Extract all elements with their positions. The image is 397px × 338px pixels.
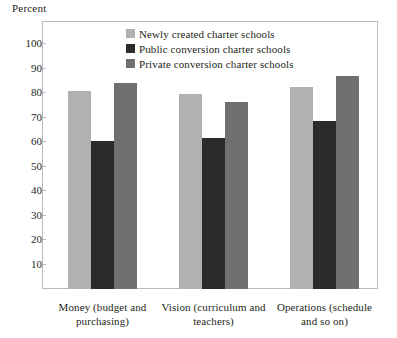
chart-legend: Newly created charter schoolsPublic conv… [126,27,294,70]
y-tick-mark [42,141,46,142]
y-tick-label: 60 [8,136,42,146]
y-tick-mark [42,166,46,167]
y-tick-mark [42,117,46,118]
y-tick-mark [42,239,46,240]
legend-item[interactable]: Newly created charter schools [126,27,294,40]
y-tick-label: 20 [8,234,42,244]
y-tick-mark [42,215,46,216]
legend-label: Newly created charter schools [139,28,275,40]
y-tick-mark [42,43,46,44]
bar [336,76,359,289]
y-tick-mark [42,190,46,191]
y-tick-label: 80 [8,87,42,97]
y-tick-mark [42,92,46,93]
y-tick-label: 50 [8,161,42,171]
bar [114,83,137,289]
legend-label: Private conversion charter schools [139,58,294,70]
x-axis-category-label-line: Vision (curriculum and [152,300,276,314]
bar [179,94,202,289]
legend-swatch-icon [126,44,135,53]
y-tick-label: 30 [8,210,42,220]
bar [225,102,248,289]
legend-label: Public conversion charter schools [139,43,290,55]
x-axis-category-label-line: Money (budget and [41,300,165,314]
legend-item[interactable]: Public conversion charter schools [126,42,294,55]
x-axis-category-label-line: teachers) [152,314,276,328]
x-axis-category-label-line: Operations (schedule [263,300,387,314]
x-axis-category-label-line: purchasing) [41,314,165,328]
y-tick-mark [42,264,46,265]
x-axis-category-label-line: and so on) [263,314,387,328]
bar [68,91,91,289]
y-tick-label: 90 [8,63,42,73]
legend-swatch-icon [126,59,135,68]
x-axis-category-label: Money (budget andpurchasing) [41,300,165,328]
bar [290,87,313,289]
y-tick-label: 70 [8,112,42,122]
y-tick-label: 10 [8,259,42,269]
y-tick-mark [42,68,46,69]
legend-swatch-icon [126,29,135,38]
legend-item[interactable]: Private conversion charter schools [126,57,294,70]
y-axis-ticks: 102030405060708090100 [0,0,42,338]
bar [91,141,114,289]
x-axis-category-label: Operations (scheduleand so on) [263,300,387,328]
bar [313,121,336,289]
chart-page: Percent 102030405060708090100 Money (bud… [0,0,397,338]
y-tick-label: 40 [8,185,42,195]
y-tick-label: 100 [8,38,42,48]
x-axis-category-label: Vision (curriculum andteachers) [152,300,276,328]
bar [202,138,225,289]
